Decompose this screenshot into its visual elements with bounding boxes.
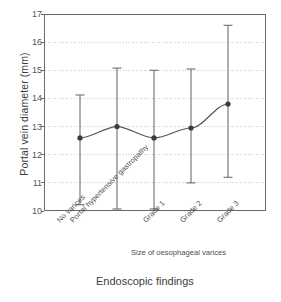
y-tick-13: 13 (26, 123, 42, 132)
y-tick-17: 17 (26, 10, 42, 19)
grid-lines (45, 42, 266, 183)
data-point-4 (188, 125, 193, 130)
data-point-5 (225, 101, 230, 106)
error-bar-1 (76, 95, 85, 205)
data-point-3 (151, 135, 156, 140)
y-tick-10: 10 (26, 207, 42, 216)
data-point-2 (114, 124, 119, 129)
y-tick-12: 12 (26, 151, 42, 160)
y-tick-11: 11 (26, 179, 42, 188)
y-tick-14: 14 (26, 94, 42, 103)
x-axis-sub-label: Size of oesophageal varices (131, 248, 226, 257)
y-tick-16: 16 (26, 38, 42, 47)
x-axis-label: Endoscopic findings (96, 275, 194, 287)
error-bar-2 (113, 68, 122, 209)
plot-frame (44, 14, 266, 211)
data-point-1 (77, 135, 82, 140)
y-tick-15: 15 (26, 66, 42, 75)
chart-figure: Portal vein diameter (mm) 17 16 15 14 13… (0, 0, 281, 302)
y-axis-tick-labels: 17 16 15 14 13 12 11 10 (22, 0, 42, 302)
